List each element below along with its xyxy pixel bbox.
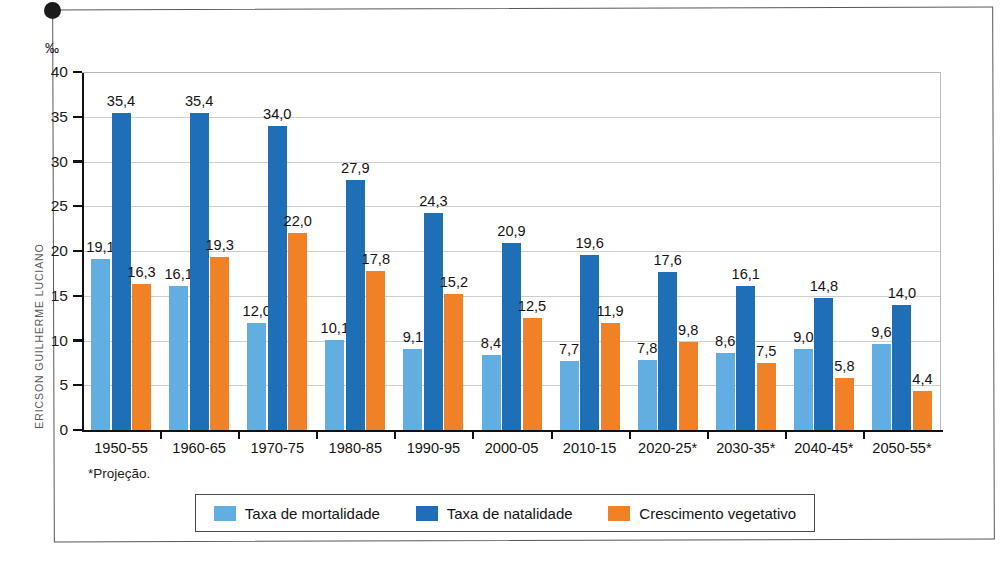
bar [523, 318, 542, 430]
x-axis-tick-label: 1990-95 [407, 440, 461, 456]
y-axis-tick-label: 30 [26, 153, 68, 171]
bar [482, 355, 501, 430]
bar [502, 243, 521, 430]
x-axis-tick [160, 430, 162, 439]
bar-value-label: 11,9 [596, 303, 623, 319]
x-axis-tick-label: 2020-25* [638, 440, 697, 456]
x-axis-tick [707, 430, 709, 439]
x-axis-tick-label: 2040-45* [794, 440, 853, 456]
x-axis-tick [394, 430, 396, 439]
x-axis-tick-label: 1970-75 [250, 440, 304, 456]
bar [403, 349, 422, 430]
y-axis-tick [73, 71, 82, 73]
bar-value-label: 9,1 [403, 329, 423, 345]
y-axis-tick-label: 5 [26, 376, 68, 394]
bar-value-label: 34,0 [263, 106, 291, 122]
x-axis-tick-label: 2050-55* [872, 440, 931, 456]
x-axis-tick [785, 430, 787, 439]
y-axis-unit-label: ‰ [45, 40, 59, 56]
y-axis-tick-label: 0 [26, 421, 68, 439]
bar-value-label: 17,6 [653, 252, 681, 268]
bar-value-label: 8,6 [715, 333, 735, 349]
y-axis-tick-label: 10 [26, 332, 68, 350]
x-axis-tick-label: 2010-15 [563, 440, 617, 456]
y-axis-tick [73, 339, 82, 341]
bar-value-label: 27,9 [341, 160, 369, 176]
bar-value-label: 9,0 [793, 329, 813, 345]
bar [835, 378, 854, 430]
bar-value-label: 24,3 [419, 193, 447, 209]
legend-swatch-mortalidade [214, 506, 236, 521]
bar [268, 126, 287, 430]
bar [679, 342, 698, 430]
y-axis-tick-label: 20 [26, 242, 68, 260]
bar-value-label: 15,2 [440, 274, 468, 290]
bar [736, 286, 755, 430]
x-axis-tick [316, 430, 318, 439]
bar-value-label: 8,4 [481, 335, 501, 351]
bar-value-label: 9,8 [678, 322, 698, 338]
y-axis-tick [73, 205, 82, 207]
legend-item: Taxa de natalidade [416, 505, 573, 522]
bar [132, 284, 151, 430]
y-axis-tick-label: 40 [26, 63, 68, 81]
x-axis-tick-label: 2030-35* [716, 440, 775, 456]
bar-value-label: 7,7 [559, 341, 579, 357]
legend-label: Taxa de mortalidade [245, 505, 380, 522]
y-axis-tick [73, 384, 82, 386]
bar-value-label: 20,9 [497, 223, 525, 239]
x-axis-tick-label: 1980-85 [329, 440, 383, 456]
bar [444, 294, 463, 430]
scanned-page: ERICSON GUILHERME LUCIANO ‰ 051015202530… [0, 0, 1005, 577]
y-axis-tick-label: 15 [26, 287, 68, 305]
y-axis-tick [73, 295, 82, 297]
bar [638, 360, 657, 430]
bar [794, 349, 813, 430]
legend-swatch-natalidade [416, 506, 438, 521]
bar-value-label: 10,1 [321, 320, 349, 336]
bar-value-label: 16,1 [732, 266, 760, 282]
legend-label: Taxa de natalidade [447, 505, 573, 522]
bar-value-label: 7,5 [756, 343, 776, 359]
bar [424, 213, 443, 430]
binding-hole-icon [44, 2, 61, 19]
legend-item: Crescimento vegetativo [608, 505, 796, 522]
bar-value-label: 22,0 [284, 213, 312, 229]
bar [288, 233, 307, 430]
bar [560, 361, 579, 430]
bar-value-label: 35,4 [185, 93, 213, 109]
bar-value-label: 14,8 [810, 278, 838, 294]
bar [872, 344, 891, 430]
x-axis-tick-label: 2000-05 [485, 440, 539, 456]
bar-value-label: 5,8 [834, 358, 854, 374]
bar [757, 363, 776, 430]
bar [169, 286, 188, 430]
bar-value-label: 12,5 [518, 298, 546, 314]
bar-value-label: 35,4 [107, 93, 135, 109]
bar [346, 180, 365, 430]
bar-value-label: 19,1 [86, 239, 114, 255]
x-axis-tick [551, 430, 553, 439]
footnote-projection: *Projeção. [88, 466, 150, 481]
bar-value-label: 12,0 [243, 303, 271, 319]
bar [325, 340, 344, 430]
bar [601, 323, 620, 430]
bar [91, 259, 110, 430]
x-axis-tick [863, 430, 865, 439]
bar-value-label: 4,4 [912, 371, 932, 387]
bar-value-label: 14,0 [888, 285, 916, 301]
bar-value-label: 16,1 [164, 266, 192, 282]
legend-item: Taxa de mortalidade [214, 505, 380, 522]
bar [190, 113, 209, 430]
bar [366, 271, 385, 430]
y-axis-tick [73, 116, 82, 118]
y-axis-tick-label: 35 [26, 108, 68, 126]
bar [716, 353, 735, 430]
bar [913, 391, 932, 430]
y-axis-tick-label: 25 [26, 197, 68, 215]
bar-value-label: 7,8 [637, 340, 657, 356]
x-axis-tick [238, 430, 240, 439]
y-axis-tick [73, 429, 82, 431]
chart-legend: Taxa de mortalidadeTaxa de natalidadeCre… [195, 494, 815, 532]
legend-swatch-crescimento [608, 506, 630, 521]
